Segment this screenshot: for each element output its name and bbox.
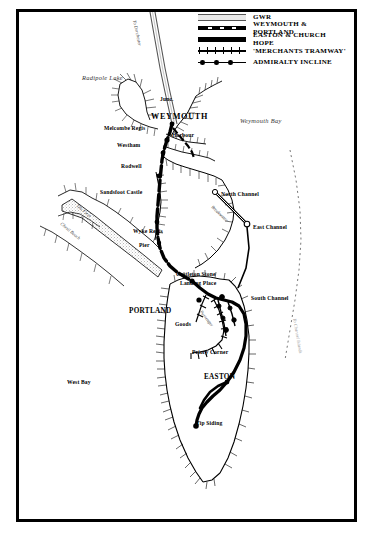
line-weymouth-and-portland: [157, 124, 192, 281]
legend-symbol-easton-church-hope: [196, 34, 248, 45]
label-goods: Goods: [175, 322, 191, 328]
label-castletown-stone: Castleton Stone: [176, 272, 216, 278]
legend-item-easton-church-hope: EASTON & CHURCH HOPE: [196, 34, 346, 45]
label-radipole-lake: Radipole Lake: [82, 75, 123, 81]
label-weymouth-bay: Weymouth Bay: [240, 118, 282, 124]
legend-item-admiralty-incline: ADMIRALTY INCLINE: [196, 57, 346, 68]
legend-symbol-admiralty-incline: [196, 57, 248, 68]
label-melcombe-regis: Melcombe Regis: [104, 126, 145, 132]
map-graphics: [0, 0, 373, 537]
label-south-channel: South Channel: [251, 296, 289, 302]
legend-label-easton-church-hope: EASTON & CHURCH HOPE: [253, 31, 346, 47]
label-wyke-regis: Wyke Regis: [133, 229, 163, 235]
label-pier: Pier: [139, 243, 150, 249]
label-tip-siding: Tip Siding: [196, 421, 222, 427]
label-east-channel: East Channel: [253, 225, 287, 231]
railway-map: GWR WEYMOUTH & PORTLAND EASTON & CHURCH …: [0, 0, 373, 537]
line-admiralty-incline: [217, 300, 236, 336]
legend-symbol-weymouth-portland: [196, 23, 248, 34]
legend-label-admiralty-incline: ADMIRALTY INCLINE: [253, 58, 332, 66]
breakwater-structures: [212, 189, 249, 299]
label-west-bay: West Bay: [67, 380, 91, 386]
label-portland: PORTLAND: [129, 308, 171, 315]
label-landing-place: Landing Place: [180, 281, 216, 287]
legend-label-merchants-tramway: 'MERCHANTS TRAMWAY': [253, 47, 346, 55]
legend-symbol-gwr: [196, 11, 248, 22]
label-weymouth: WEYMOUTH: [151, 113, 208, 121]
label-north-channel: North Channel: [221, 192, 259, 198]
coastline-weymouth-bay-north: [171, 77, 222, 137]
label-sandsfoot-castle: Sandsfoot Castle: [100, 190, 142, 196]
legend-item-merchants-tramway: 'MERCHANTS TRAMWAY': [196, 45, 346, 56]
label-easton: EASTON: [204, 374, 235, 381]
label-priory-corner: Priory Corner: [192, 350, 228, 356]
legend-symbol-merchants-tramway: [196, 45, 248, 56]
map-legend: GWR WEYMOUTH & PORTLAND EASTON & CHURCH …: [196, 11, 346, 68]
label-westham: Westham: [117, 143, 140, 149]
label-harbour: Harbour: [172, 133, 194, 139]
label-junction: Junc.: [160, 97, 174, 103]
label-rodwell: Rodwell: [121, 164, 142, 170]
